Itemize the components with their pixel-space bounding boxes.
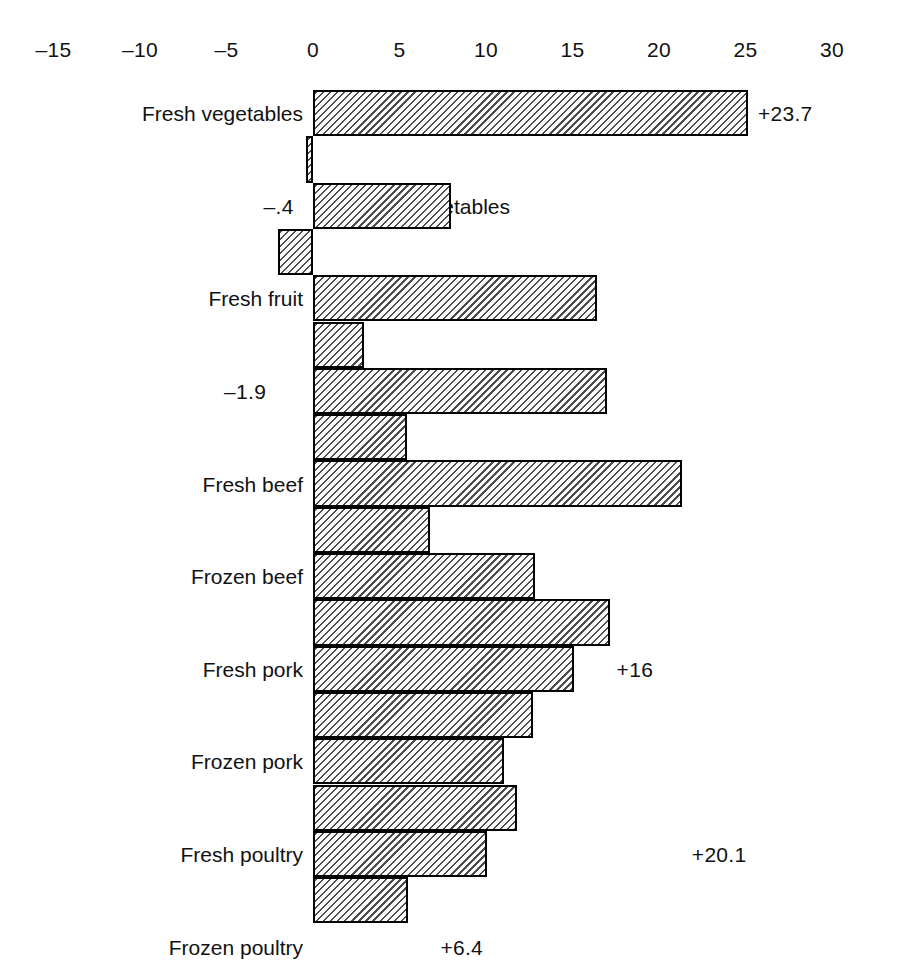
bar[interactable]	[278, 229, 313, 275]
bar[interactable]	[313, 368, 607, 414]
bar[interactable]	[313, 738, 504, 784]
x-axis-tick-label: –10	[122, 38, 158, 62]
value-label: +23.7	[758, 103, 813, 124]
bar[interactable]	[313, 785, 517, 831]
bar-row: Coffee+14.2	[0, 646, 910, 692]
bar-row: Frozen beef+2.8	[0, 322, 910, 368]
bar-row: Frozen seafood+16.2	[0, 599, 910, 645]
bar[interactable]	[313, 322, 364, 368]
category-label: Fresh vegetables	[142, 103, 303, 124]
x-axis-tick-label: 20	[647, 38, 671, 62]
bar-chart: –15–10–5051015202530 Fresh vegetables+23…	[0, 0, 910, 972]
x-axis-tick-label: 15	[560, 38, 584, 62]
x-axis: –15–10–5051015202530	[0, 38, 910, 68]
bar[interactable]	[306, 136, 313, 182]
bar[interactable]	[313, 646, 574, 692]
x-axis-tick-label: 30	[820, 38, 844, 62]
bar-row: Fresh seafood+12.1	[0, 553, 910, 599]
bar-row: Frozen poultry+6.4	[0, 507, 910, 553]
bar-row: Canned vegetables–.4	[0, 136, 910, 182]
x-axis-tick-label: 5	[393, 38, 405, 62]
value-label: +6.4	[440, 936, 483, 957]
bar[interactable]	[313, 275, 597, 321]
bar-row: Fresh pork+16	[0, 368, 910, 414]
bar-row: Fresh fruit+7.5	[0, 183, 910, 229]
bar-row: Fresh baked goods+9.5	[0, 831, 910, 877]
bar-row: Fats and oils+11.1	[0, 785, 910, 831]
bar-row: Fresh beef+15.5	[0, 275, 910, 321]
bar[interactable]	[313, 831, 487, 877]
x-axis-tick-label: 0	[307, 38, 319, 62]
bar[interactable]	[313, 414, 407, 460]
bar-row: Fresh vegetables+23.7	[0, 90, 910, 136]
bar-row: Frozen pork+5.1	[0, 414, 910, 460]
bar[interactable]	[313, 553, 535, 599]
bar[interactable]	[313, 877, 408, 923]
bar-row: Tea+12	[0, 692, 910, 738]
bar[interactable]	[313, 507, 430, 553]
bar-row: Juices+10.4	[0, 738, 910, 784]
bar-row: Canned fruit–1.9	[0, 229, 910, 275]
bar-row: Fresh poultry+20.1	[0, 460, 910, 506]
category-label: Frozen poultry	[169, 936, 303, 957]
x-axis-tick-label: 10	[474, 38, 498, 62]
bar[interactable]	[313, 460, 682, 506]
bar[interactable]	[313, 692, 533, 738]
bar[interactable]	[313, 599, 610, 645]
bar[interactable]	[313, 183, 451, 229]
bar-row: Frozen baked goods+5.2	[0, 877, 910, 923]
x-axis-tick-label: –5	[214, 38, 238, 62]
x-axis-tick-label: –15	[35, 38, 71, 62]
plot-area: Fresh vegetables+23.7Canned vegetables–.…	[0, 90, 910, 925]
x-axis-tick-label: 25	[733, 38, 757, 62]
bar[interactable]	[313, 90, 748, 136]
